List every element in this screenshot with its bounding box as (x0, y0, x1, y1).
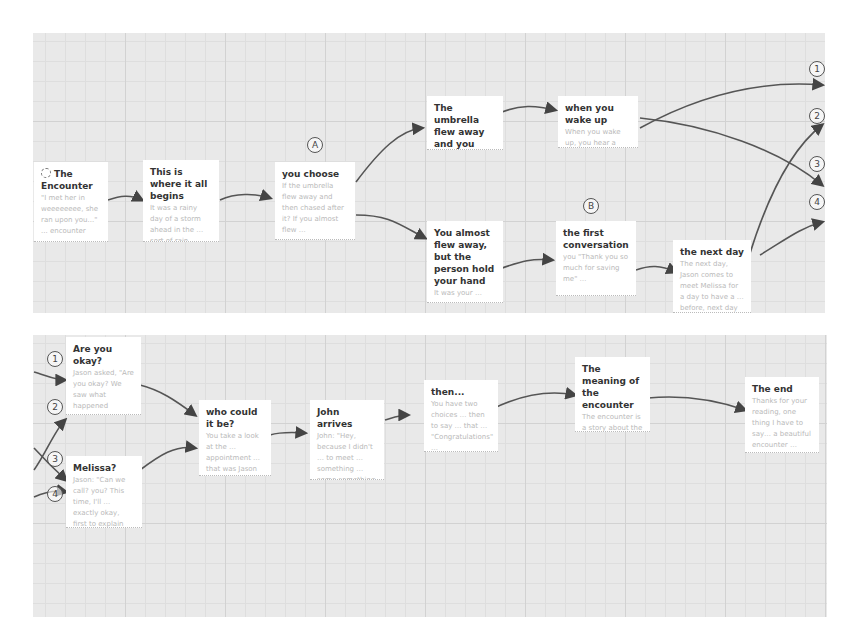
node-body: When you wake up, you hear a voice. Your… (565, 127, 631, 148)
connector-marker-1: 1 (809, 61, 825, 77)
node-title: The umbrella flew away and you chased af… (434, 102, 496, 150)
node-card[interactable]: The Encounter "I met her in weeeeeeee, s… (34, 162, 108, 242)
node-card[interactable]: John arrives John: "Hey, because I didn'… (310, 400, 384, 480)
connector-marker-4: 4 (47, 486, 63, 502)
node-card[interactable]: Are you okay? Jason asked, "Are you okay… (66, 337, 141, 415)
node-body: You have two choices … then to say … tha… (431, 399, 491, 452)
node-body: Jason asked, "Are you okay? We saw what … (73, 368, 134, 415)
node-title: Melissa? (73, 462, 135, 474)
node-title: the first conversation (563, 227, 629, 251)
node-body: You take a look at the … appointment … t… (206, 431, 264, 476)
node-card[interactable]: the next day The next day, Jason comes t… (673, 240, 751, 313)
connector-marker-1: 1 (47, 351, 63, 367)
node-card[interactable]: The meaning of the encounter The encount… (575, 357, 650, 432)
node-card[interactable]: The umbrella flew away and you chased af… (427, 96, 503, 150)
node-body: Jason: "Can we call? you? This time, I'l… (73, 475, 135, 528)
node-title: This is where it all begins (150, 166, 212, 202)
node-title: The Encounter (41, 168, 101, 192)
node-card[interactable]: when you wake up When you wake up, you h… (558, 96, 638, 148)
connector-marker-2: 2 (47, 399, 63, 415)
node-body: The next day, Jason comes to meet Meliss… (680, 259, 744, 313)
node-title: when you wake up (565, 102, 631, 126)
node-body: It was a rainy day of a storm ahead in t… (150, 203, 212, 242)
node-title: the next day (680, 246, 744, 258)
node-title: Are you okay? (73, 343, 134, 367)
node-body: The encounter is a story about the real … (582, 412, 643, 432)
canvas-panel-bottom[interactable] (33, 335, 827, 617)
connector-marker-3: 3 (47, 451, 63, 467)
spiral-icon (41, 168, 51, 178)
node-body: If the umbrella flew away and then chase… (282, 181, 348, 236)
node-title: then... (431, 386, 491, 398)
node-card[interactable]: This is where it all begins It was a rai… (143, 160, 219, 242)
node-card[interactable]: You almost flew away, but the person hol… (427, 221, 503, 303)
node-title: John arrives (317, 406, 377, 430)
node-card[interactable]: then... You have two choices … then to s… (424, 380, 498, 452)
node-title: The meaning of the encounter (582, 363, 643, 411)
node-title: you choose (282, 168, 348, 180)
node-title: You almost flew away, but the person hol… (434, 227, 496, 287)
connector-marker-3: 3 (809, 156, 825, 172)
node-card[interactable]: The end Thanks for your reading, one thi… (745, 377, 819, 453)
connector-marker-2: 2 (809, 108, 825, 124)
node-title: The end (752, 383, 812, 395)
branch-marker-a: A (307, 137, 323, 153)
node-body: you "Thank you so much for saving me" … (563, 252, 629, 285)
node-body: Thanks for your reading, one thing I hav… (752, 396, 812, 451)
node-body: "I met her in weeeeeeee, she ran upon yo… (41, 193, 101, 237)
connector-marker-4: 4 (809, 194, 825, 210)
node-title: who could it be? (206, 406, 264, 430)
node-body: It was your … (434, 288, 496, 299)
node-card[interactable]: the first conversation you "Thank you so… (556, 221, 636, 296)
node-body: John: "Hey, because I didn't … to meet …… (317, 431, 377, 480)
node-card[interactable]: who could it be? You take a look at the … (199, 400, 271, 476)
branch-marker-b: B (583, 198, 599, 214)
node-card[interactable]: Melissa? Jason: "Can we call? you? This … (66, 456, 142, 528)
node-card[interactable]: you choose If the umbrella flew away and… (275, 162, 355, 240)
